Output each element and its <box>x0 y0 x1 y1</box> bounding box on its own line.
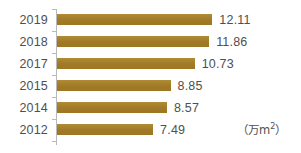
bar <box>57 102 167 113</box>
value-label: 10.73 <box>202 53 234 75</box>
bar <box>57 80 171 91</box>
unit-close: ） <box>275 123 286 137</box>
bar <box>57 58 195 69</box>
bar-row: 2014 8.57 <box>0 97 301 119</box>
category-label: 2015 <box>0 75 48 97</box>
bar <box>57 14 212 25</box>
bar-row: 2015 8.85 <box>0 75 301 97</box>
bar-row: 2018 11.86 <box>0 31 301 53</box>
plot-area: 2019 12.11 2018 11.86 2017 10.73 2015 8.… <box>0 0 301 153</box>
value-label: 11.86 <box>216 31 247 53</box>
unit-open: （万m <box>237 123 270 137</box>
value-label: 8.57 <box>174 97 199 119</box>
bar <box>57 36 209 47</box>
bar-row: 2017 10.73 <box>0 53 301 75</box>
axis-tick <box>52 141 56 142</box>
category-label: 2018 <box>0 31 48 53</box>
category-label: 2012 <box>0 119 48 141</box>
category-label: 2014 <box>0 97 48 119</box>
category-label: 2017 <box>0 53 48 75</box>
bar-chart: 2019 12.11 2018 11.86 2017 10.73 2015 8.… <box>0 0 301 153</box>
bar <box>57 124 153 135</box>
bar-row: 2019 12.11 <box>0 9 301 31</box>
category-label: 2019 <box>0 9 48 31</box>
value-label: 12.11 <box>219 9 250 31</box>
value-label: 7.49 <box>160 119 185 141</box>
value-label: 8.85 <box>178 75 203 97</box>
unit-annotation: （万m2） <box>237 121 286 137</box>
